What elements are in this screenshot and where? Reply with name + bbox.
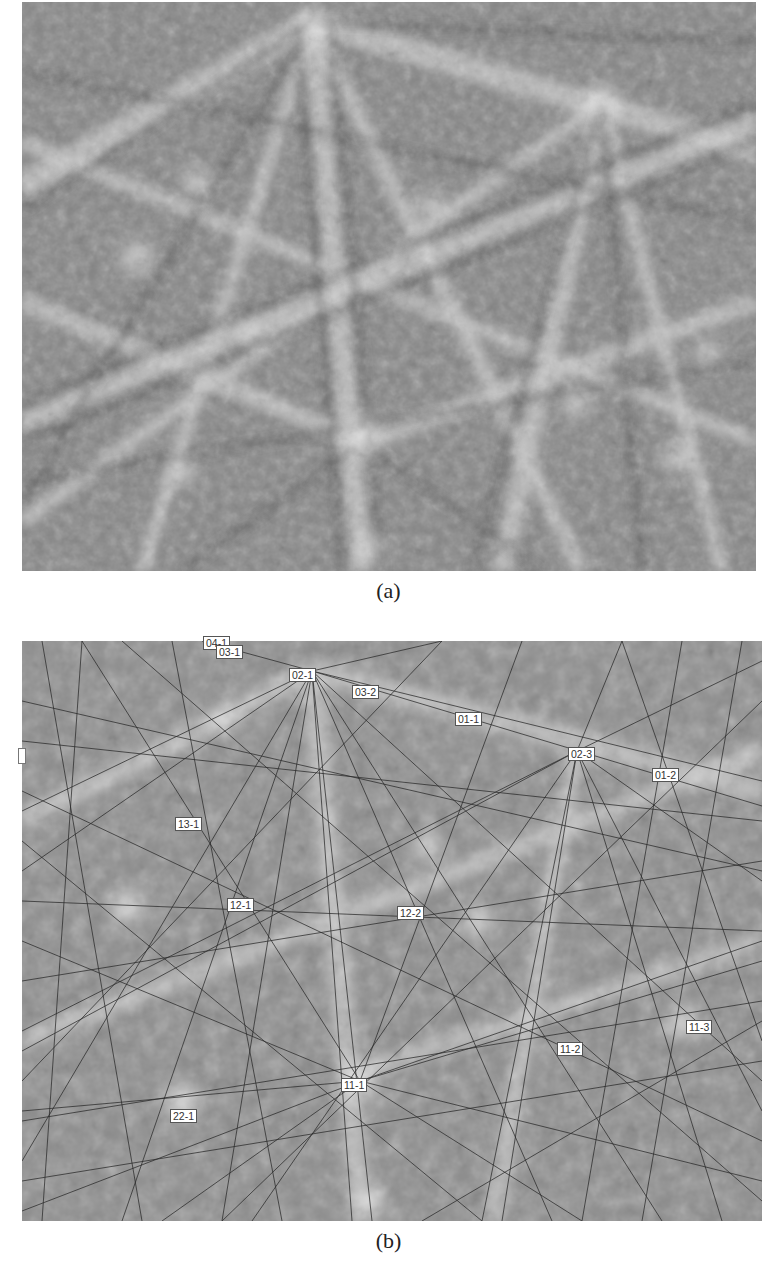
zone-label: 11-3 [686, 1020, 712, 1034]
zone-label: 01-2 [652, 768, 679, 782]
zone-label: 03-2 [352, 685, 379, 699]
kikuchi-pattern-raw [22, 2, 756, 571]
zone-label: 01-1 [455, 712, 482, 726]
zone-label: 12-1 [227, 898, 254, 912]
zone-label: 22-1 [170, 1109, 197, 1123]
zone-label: 13-1 [175, 817, 202, 831]
zone-label: 11-1 [341, 1078, 367, 1092]
caption-a: (a) [0, 578, 777, 604]
zone-label: 12-2 [397, 906, 424, 920]
zone-label: 11-2 [557, 1042, 583, 1056]
zone-label: 02-3 [568, 747, 595, 761]
zone-label: 03-1 [216, 645, 243, 659]
zone-label: 02-1 [289, 668, 316, 682]
kikuchi-pattern-indexed [22, 641, 762, 1221]
clipped-label [18, 748, 26, 764]
caption-b: (b) [0, 1228, 777, 1254]
kikuchi-pattern-raw-image [22, 2, 756, 571]
kikuchi-pattern-indexed-image [22, 641, 762, 1221]
